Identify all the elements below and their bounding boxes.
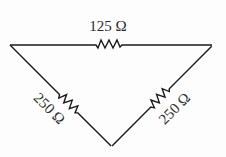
circuit-diagram: 125 Ω 250 Ω 250 Ω <box>0 0 226 157</box>
right-branch <box>108 43 213 148</box>
top-resistor-label: 125 Ω <box>89 18 126 34</box>
circuit-svg: 125 Ω 250 Ω 250 Ω <box>0 0 226 157</box>
left-resistor-label: 250 Ω <box>31 90 69 128</box>
top-wire <box>10 40 212 48</box>
left-branch <box>8 41 115 148</box>
